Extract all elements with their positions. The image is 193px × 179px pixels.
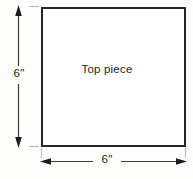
- technical-drawing-diagram: Top piece 6" 6": [0, 0, 193, 179]
- diagram-canvas: [0, 0, 193, 179]
- height-arrowhead-bottom-icon: [15, 137, 22, 148]
- height-dimension-label: 6": [7, 68, 31, 80]
- width-arrowhead-left-icon: [40, 158, 51, 165]
- height-arrowhead-top-icon: [15, 5, 22, 16]
- top-piece-label: Top piece: [70, 64, 144, 76]
- width-dimension-label: 6": [95, 154, 119, 166]
- width-arrowhead-right-icon: [176, 158, 187, 165]
- top-piece-square: [42, 8, 185, 146]
